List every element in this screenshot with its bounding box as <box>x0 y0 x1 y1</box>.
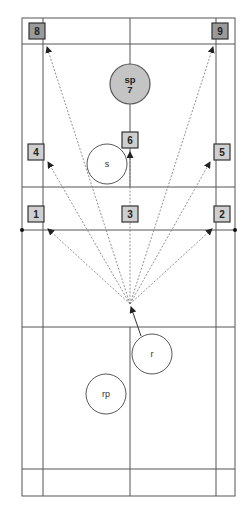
net-post-right <box>233 228 237 232</box>
player-label: rp <box>102 389 110 399</box>
zone-5-box: 5 <box>214 144 230 160</box>
zone-label: 3 <box>127 209 133 220</box>
zone-label: 8 <box>34 26 40 37</box>
player-sp: sp7 <box>110 64 150 104</box>
trajectory-to-zone-5 <box>130 162 210 304</box>
trajectory-to-zone-1 <box>48 229 130 304</box>
zone-label: 5 <box>219 147 225 158</box>
zone-label: 2 <box>219 209 225 220</box>
player-r: r <box>132 334 172 374</box>
zone-6-box: 6 <box>122 132 138 148</box>
trajectory-to-zone-2 <box>130 229 212 304</box>
zone-label: 6 <box>127 135 133 146</box>
zone-label: 4 <box>33 147 39 158</box>
zone-2-box: 2 <box>214 206 230 222</box>
badminton-court-diagram: sp7srrp 12345689 <box>0 0 250 514</box>
zone-1-box: 1 <box>28 206 44 222</box>
zone-label: 9 <box>217 26 223 37</box>
zone-3-box: 3 <box>122 206 138 222</box>
zone-8-box: 8 <box>29 23 45 39</box>
player-zone-label: 7 <box>127 84 132 95</box>
player-s: s <box>87 144 127 184</box>
receiver-movement-arrow <box>131 307 141 336</box>
target-zones: 12345689 <box>28 23 230 222</box>
trajectory-to-zone-4 <box>48 162 130 304</box>
zone-label: 1 <box>33 209 39 220</box>
players: sp7srrp <box>86 64 172 414</box>
player-rp: rp <box>86 374 126 414</box>
net-post-left <box>20 228 24 232</box>
zone-4-box: 4 <box>28 144 44 160</box>
player-label: s <box>105 159 110 169</box>
zone-9-box: 9 <box>212 23 228 39</box>
player-label: r <box>151 349 154 359</box>
